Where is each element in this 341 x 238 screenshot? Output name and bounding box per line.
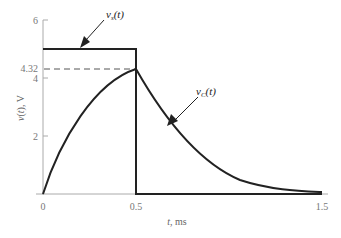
x-tick-label-1-5: 1.5 (316, 201, 329, 212)
y-tick-label-2: 2 (33, 131, 38, 142)
vc-label: vC(t) (196, 85, 216, 99)
x-axis-label: t, ms (167, 216, 187, 227)
vc-curve (43, 69, 322, 194)
y-tick-label-4: 4 (33, 73, 38, 84)
y-axis-label: v(t), V (15, 94, 27, 121)
vs-label: vs(t) (106, 8, 124, 22)
chart: 6 4.32 4 2 0 0.5 1.5 t, ms v(t), V vs(t)… (0, 0, 341, 238)
y-tick-label-6: 6 (33, 15, 38, 26)
vc-arrow-line (176, 97, 198, 119)
vs-pulse-line (43, 49, 322, 194)
x-tick-label-0-5: 0.5 (130, 201, 143, 212)
x-tick-label-0: 0 (41, 201, 46, 212)
vs-arrow-line (86, 20, 104, 40)
